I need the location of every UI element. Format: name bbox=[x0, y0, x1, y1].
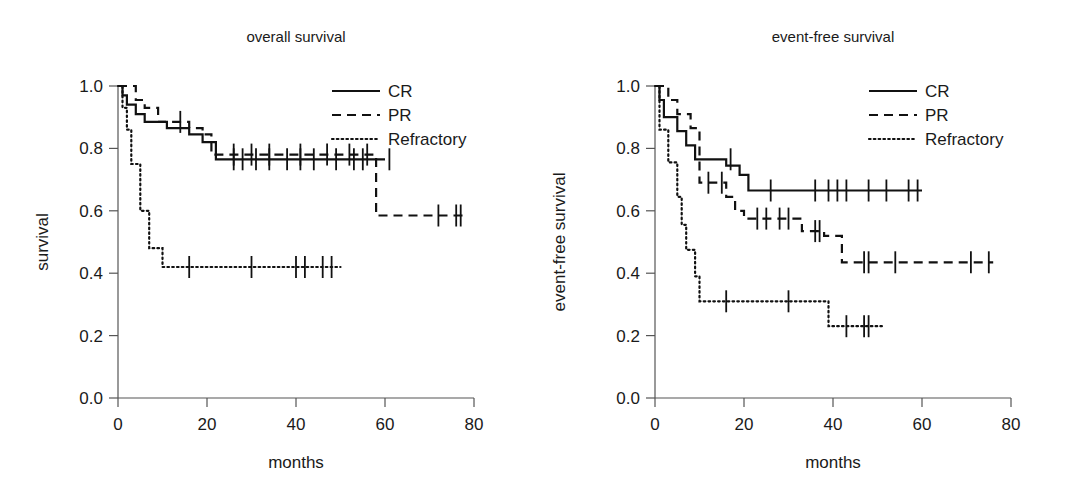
y-tick-label: 0.2 bbox=[79, 327, 103, 346]
chart-title: event-free survival bbox=[772, 28, 895, 45]
y-tick-label: 1.0 bbox=[616, 77, 640, 96]
x-tick-label: 60 bbox=[376, 415, 395, 434]
curve-pr bbox=[118, 86, 465, 216]
x-tick-label: 40 bbox=[824, 415, 843, 434]
x-tick-label: 0 bbox=[650, 415, 659, 434]
y-axis-label: event-free survival bbox=[550, 173, 569, 312]
y-tick-label: 0.0 bbox=[616, 389, 640, 408]
panel-event-free-survival: event-free survival0204060800.00.20.40.6… bbox=[537, 0, 1073, 502]
y-tick-label: 0.8 bbox=[79, 139, 103, 158]
x-tick-label: 60 bbox=[913, 415, 932, 434]
legend-label-pr: PR bbox=[388, 106, 412, 125]
y-axis-label: survival bbox=[33, 213, 52, 271]
y-tick-label: 0.6 bbox=[616, 202, 640, 221]
x-tick-label: 0 bbox=[113, 415, 122, 434]
legend: CRPRRefractory bbox=[869, 82, 1004, 149]
plot-event-free-survival: event-free survival0204060800.00.20.40.6… bbox=[537, 0, 1073, 502]
legend-label-cr: CR bbox=[388, 82, 413, 101]
x-tick-label: 20 bbox=[198, 415, 217, 434]
legend: CRPRRefractory bbox=[332, 82, 467, 149]
y-tick-label: 0.4 bbox=[79, 264, 103, 283]
plot-overall-survival: overall survival0204060800.00.20.40.60.8… bbox=[0, 0, 536, 502]
y-tick-label: 0.4 bbox=[616, 264, 640, 283]
survival-figure: overall survival0204060800.00.20.40.60.8… bbox=[0, 0, 1073, 502]
legend-label-refractory: Refractory bbox=[925, 130, 1004, 149]
curve-refractory bbox=[118, 86, 341, 267]
x-tick-label: 80 bbox=[465, 415, 484, 434]
x-tick-label: 80 bbox=[1002, 415, 1021, 434]
x-axis-label: months bbox=[268, 453, 324, 472]
curve-refractory bbox=[655, 86, 882, 326]
legend-label-pr: PR bbox=[925, 106, 949, 125]
legend-label-cr: CR bbox=[925, 82, 950, 101]
y-tick-label: 0.6 bbox=[79, 202, 103, 221]
y-tick-label: 0.8 bbox=[616, 139, 640, 158]
y-tick-label: 1.0 bbox=[79, 77, 103, 96]
panel-overall-survival: overall survival0204060800.00.20.40.60.8… bbox=[0, 0, 536, 502]
y-tick-label: 0.0 bbox=[79, 389, 103, 408]
chart-title: overall survival bbox=[246, 28, 345, 45]
curve-cr bbox=[655, 86, 922, 191]
legend-label-refractory: Refractory bbox=[388, 130, 467, 149]
x-tick-label: 40 bbox=[287, 415, 306, 434]
x-axis-label: months bbox=[805, 453, 861, 472]
y-tick-label: 0.2 bbox=[616, 327, 640, 346]
x-tick-label: 20 bbox=[735, 415, 754, 434]
